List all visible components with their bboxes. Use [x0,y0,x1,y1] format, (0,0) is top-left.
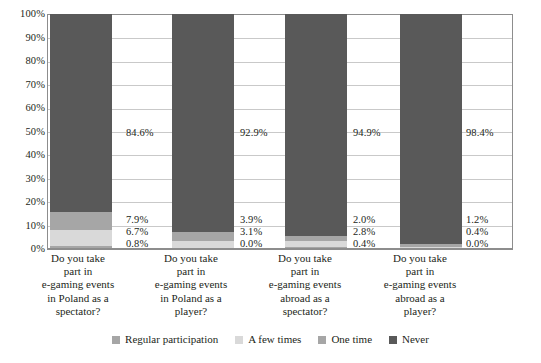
x-axis: Do you takepart ine-gaming eventsin Pola… [47,252,513,324]
legend-label: Never [402,333,429,346]
legend-item-never: Never [389,333,429,346]
bar-segment [400,247,462,248]
bar-segment [285,247,347,248]
bar-segment [285,14,347,236]
legend-item-a-few-times: A few times [235,333,301,346]
y-axis: 100% 90% 80% 70% 60% 50% 40% 30% 20% 10%… [0,14,45,250]
bar-segment [50,246,112,248]
bar-segment [172,14,234,231]
legend-swatch-icon [389,336,397,344]
bar-stack-1 [172,14,234,248]
data-label-a-few-times: 3.1% [240,226,262,237]
data-label-never: 98.4% [466,127,494,138]
bar-segment [400,14,462,244]
data-label-never: 92.9% [240,127,268,138]
data-label-regular-participation: 0.0% [466,238,488,249]
legend-label: A few times [248,333,301,346]
legend-label: Regular participation [125,333,218,346]
bar-segment [50,212,112,230]
data-label-a-few-times: 2.8% [353,226,375,237]
y-tick-label: 90% [3,32,45,43]
legend-swatch-icon [235,336,243,344]
bar-segment [172,232,234,241]
y-tick-label: 20% [3,197,45,208]
legend-swatch-icon [112,336,120,344]
bar-stack-0 [50,14,112,248]
data-label-one-time: 2.0% [353,214,375,225]
x-category-label-1: Do you takepart ine-gaming eventsin Pola… [131,252,251,318]
y-tick-label: 100% [3,9,45,20]
data-label-one-time: 7.9% [126,214,148,225]
data-label-never: 84.6% [126,127,154,138]
legend-item-regular-participation: Regular participation [112,333,218,346]
y-tick-label: 50% [3,126,45,137]
bar-segment [50,230,112,246]
y-tick-label: 10% [3,220,45,231]
legend-item-one-time: One time [318,333,372,346]
data-label-a-few-times: 6.7% [126,226,148,237]
plot-area: 84.6%7.9%6.7%0.8%92.9%3.9%3.1%0.0%94.9%2… [47,14,513,250]
y-tick-label: 40% [3,150,45,161]
bar-segment [50,14,112,212]
bar-stack-3 [400,14,462,248]
axis-baseline [48,248,512,249]
x-category-label-0: Do you takepart ine-gaming eventsin Pola… [18,252,138,318]
bar-segment [172,241,234,248]
data-label-one-time: 1.2% [466,214,488,225]
bar-stack-2 [285,14,347,248]
x-category-label-3: Do you takepart ine-gaming eventsabroad … [360,252,480,318]
data-label-regular-participation: 0.4% [353,238,375,249]
y-tick-label: 70% [3,79,45,90]
data-label-never: 94.9% [353,127,381,138]
y-tick-label: 80% [3,56,45,67]
y-tick-label: 60% [3,103,45,114]
data-label-regular-participation: 0.0% [240,238,262,249]
data-label-regular-participation: 0.8% [126,238,148,249]
legend-swatch-icon [318,336,326,344]
x-category-label-2: Do you takepart ine-gaming eventsabroad … [245,252,365,318]
chart-legend: Regular participation A few times One ti… [0,333,541,346]
y-tick-label: 30% [3,173,45,184]
data-label-a-few-times: 0.4% [466,226,488,237]
legend-label: One time [331,333,372,346]
stacked-bar-chart: 100% 90% 80% 70% 60% 50% 40% 30% 20% 10%… [0,0,541,363]
data-label-one-time: 3.9% [240,214,262,225]
